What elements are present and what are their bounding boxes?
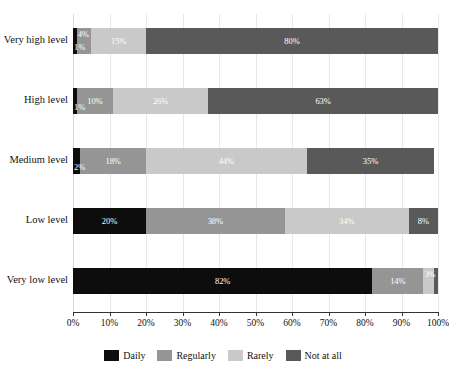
- bar-segment[interactable]: 38%: [146, 208, 285, 234]
- x-tick-90: [402, 312, 403, 316]
- legend-item-not-at-all[interactable]: Not at all: [286, 350, 342, 361]
- bar-segment[interactable]: 18%: [80, 148, 146, 174]
- x-tick-30: [183, 312, 184, 316]
- x-axis-label-10: 10%: [101, 318, 118, 328]
- bar-segment[interactable]: 26%: [113, 88, 208, 114]
- y-axis-label-high-level: High level: [0, 94, 68, 105]
- segment-value-label: 8%: [418, 216, 429, 226]
- segment-value-label: 63%: [315, 96, 330, 106]
- y-axis-category-labels: Very high levelHigh levelMedium levelLow…: [0, 14, 68, 312]
- bar-row: 82%14%3%: [73, 268, 438, 294]
- x-axis-label-60: 60%: [283, 318, 300, 328]
- x-tick-50: [256, 312, 257, 316]
- bar-segment[interactable]: 8%: [409, 208, 438, 234]
- y-axis-label-very-low-level: Very low level: [0, 274, 68, 285]
- legend-item-rarely[interactable]: Rarely: [228, 350, 274, 361]
- x-axis-label-0: 0%: [67, 318, 80, 328]
- x-tick-70: [329, 312, 330, 316]
- x-axis-label-30: 30%: [174, 318, 191, 328]
- bar-segment[interactable]: 15%: [91, 28, 146, 54]
- plot-area: 1%4%15%80%1%10%26%63%2%18%44%35%20%38%34…: [73, 14, 438, 312]
- chart-legend: DailyRegularlyRarelyNot at all: [0, 345, 446, 365]
- legend-label: Rarely: [247, 350, 274, 361]
- legend-swatch: [104, 350, 119, 361]
- x-tick-100: [438, 312, 439, 316]
- bar-row: 2%18%44%35%: [73, 148, 438, 174]
- legend-label: Regularly: [176, 350, 215, 361]
- segment-value-label: 15%: [111, 36, 126, 46]
- legend-swatch: [228, 350, 243, 361]
- segment-value-callout: 1%: [74, 42, 85, 52]
- gridline-100: [438, 14, 439, 312]
- x-axis-label-40: 40%: [210, 318, 227, 328]
- x-axis-label-20: 20%: [137, 318, 154, 328]
- y-axis-label-medium-level: Medium level: [0, 154, 68, 165]
- segment-value-label: 34%: [339, 216, 354, 226]
- x-axis-label-70: 70%: [320, 318, 337, 328]
- x-tick-0: [73, 312, 74, 316]
- x-axis-label-80: 80%: [356, 318, 373, 328]
- legend-item-daily[interactable]: Daily: [104, 350, 145, 361]
- segment-value-label: 10%: [87, 96, 102, 106]
- legend-item-regularly[interactable]: Regularly: [157, 350, 215, 361]
- x-axis-label-50: 50%: [247, 318, 264, 328]
- bar-segment[interactable]: 35%: [307, 148, 435, 174]
- segment-value-label: 82%: [215, 276, 230, 286]
- x-tick-80: [365, 312, 366, 316]
- bar-segment[interactable]: 14%: [372, 268, 423, 294]
- segment-value-label: 26%: [153, 96, 168, 106]
- segment-value-label: 18%: [106, 156, 121, 166]
- bar-row: 1%10%26%63%: [73, 88, 438, 114]
- segment-value-label: 35%: [363, 156, 378, 166]
- bar-segment[interactable]: 63%: [208, 88, 438, 114]
- y-axis-label-very-high-level: Very high level: [0, 34, 68, 45]
- legend-label: Not at all: [305, 350, 342, 361]
- legend-swatch: [286, 350, 301, 361]
- bar-segment[interactable]: 80%: [146, 28, 438, 54]
- x-tick-40: [219, 312, 220, 316]
- segment-value-callout: 3%: [424, 269, 435, 279]
- x-axis-tick-labels: 0%10%20%30%40%50%60%70%80%90%100%: [0, 318, 446, 334]
- y-axis-label-low-level: Low level: [0, 214, 68, 225]
- segment-value-label: 44%: [219, 156, 234, 166]
- segment-value-callout: 2%: [74, 162, 85, 172]
- x-axis-label-100: 100%: [427, 318, 449, 328]
- bar-segment[interactable]: 44%: [146, 148, 307, 174]
- segment-value-label: 14%: [390, 276, 405, 286]
- legend-label: Daily: [123, 350, 145, 361]
- bar-row: 20%38%34%8%: [73, 208, 438, 234]
- x-tick-60: [292, 312, 293, 316]
- x-tick-10: [110, 312, 111, 316]
- bar-segment[interactable]: 34%: [285, 208, 409, 234]
- bar-row: 1%4%15%80%: [73, 28, 438, 54]
- x-axis-label-90: 90%: [393, 318, 410, 328]
- bar-segment[interactable]: 82%: [73, 268, 372, 294]
- segment-value-callout: 1%: [74, 102, 85, 112]
- bar-segment[interactable]: 20%: [73, 208, 146, 234]
- segment-value-label: 80%: [284, 36, 299, 46]
- legend-swatch: [157, 350, 172, 361]
- segment-value-label: 38%: [208, 216, 223, 226]
- x-tick-20: [146, 312, 147, 316]
- segment-value-callout: 4%: [78, 29, 89, 39]
- segment-value-label: 20%: [102, 216, 117, 226]
